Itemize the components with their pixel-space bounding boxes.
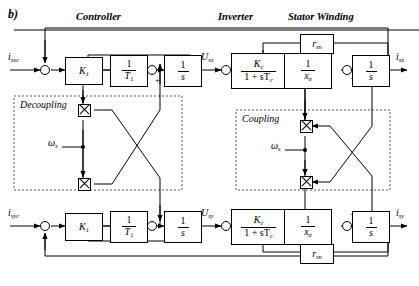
decoupling-multiplier-lower-icon (78, 178, 91, 191)
block-inverter-bottom: Kc 1 + sTc (231, 209, 286, 245)
section-title-inverter: Inverter (218, 12, 253, 23)
diagram-wiring (0, 0, 419, 286)
coupling-multiplier-upper-icon (300, 120, 313, 133)
section-title-controller: Controller (76, 12, 121, 23)
signal-label-input-x: isxc (8, 52, 19, 64)
signal-label-omega-decoupling: ωs (48, 138, 58, 150)
block-xsigma-bottom: 1 xσ (284, 209, 332, 245)
signal-label-output-y: isy (396, 208, 404, 220)
signal-label-usy: Usy (201, 208, 214, 220)
figure-label: b) (8, 8, 18, 20)
section-title-stator-winding: Stator Winding (288, 12, 354, 23)
block-gain-k1-bottom: K1 (65, 213, 103, 241)
panel-title-coupling: Coupling (242, 114, 279, 124)
block-diagram-canvas: b) Controller Inverter Stator Winding De… (0, 0, 419, 286)
coupling-multiplier-lower-icon (300, 176, 313, 189)
signal-label-usx: Usx (201, 52, 214, 64)
signal-label-output-x: isx (396, 52, 404, 64)
signal-label-input-y: isyc (8, 208, 19, 220)
block-integrator-controller-bottom: 1 s (164, 211, 202, 243)
block-integrator-controller-top: 1 s (164, 55, 202, 87)
decoupling-multiplier-upper-icon (78, 104, 91, 117)
block-resistance-bottom: rsn (300, 244, 334, 264)
block-integrator-stator-bottom: 1 s (352, 211, 390, 243)
block-tau-top: 1 T1 (110, 55, 148, 87)
sign-ctrl-top: + (155, 76, 160, 85)
block-inverter-top: Kc 1 + sTc (231, 53, 286, 89)
panel-title-decoupling: Decoupling (20, 100, 67, 110)
block-gain-k1-top: K1 (65, 57, 103, 85)
block-resistance-top: rsn (300, 34, 334, 54)
block-xsigma-top: 1 xσ (284, 53, 332, 89)
signal-label-omega-coupling: ωs (271, 141, 281, 153)
block-integrator-stator-top: 1 s (352, 55, 390, 87)
block-tau-bottom: 1 T1 (110, 211, 148, 243)
